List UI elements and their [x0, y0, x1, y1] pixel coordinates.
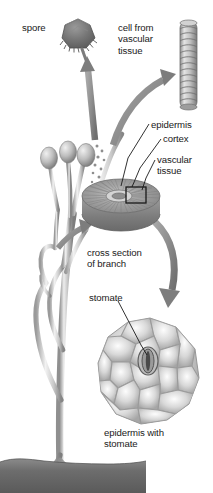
- figure-container: spore cell from vascular tissue epidermi…: [0, 0, 213, 493]
- label-spore: spore: [22, 22, 46, 33]
- label-cortex: cortex: [163, 133, 189, 144]
- cross-section-disc: [82, 179, 160, 231]
- stomate-structure: [138, 347, 158, 375]
- arrow-sporangium-to-spore: [80, 56, 95, 140]
- label-cross-section-of-branch: cross section of branch: [87, 247, 142, 270]
- epidermis-disc: [98, 301, 199, 424]
- label-vascular-tissue: vascular tissue: [157, 154, 192, 177]
- arrow-cross-section-to-epidermis: [155, 222, 180, 308]
- spore-body: [60, 19, 97, 60]
- vascular-cell: [180, 20, 197, 110]
- leader-epidermis: [121, 124, 149, 186]
- label-cell-from-vascular-tissue: cell from vascular tissue: [118, 22, 153, 56]
- label-stomate: stomate: [89, 292, 122, 303]
- label-epidermis-with-stomate: epidermis with stomate: [104, 427, 164, 450]
- label-epidermis: epidermis: [151, 119, 192, 130]
- soil-line: [0, 459, 146, 493]
